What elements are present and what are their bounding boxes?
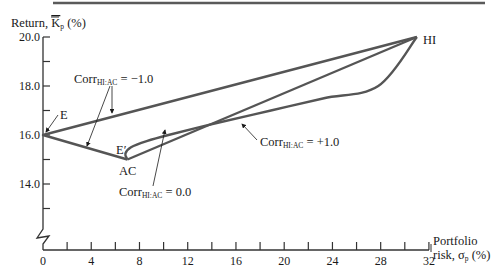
x-axis-title-line1: Portfolio xyxy=(433,234,477,248)
y-tick-labels: 14.016.018.020.0 xyxy=(19,30,40,191)
x-axis-title-line2: risk, σp (%) xyxy=(433,248,490,263)
y-axis xyxy=(37,37,49,250)
annotation-corr-neg1: CorrHI:AC = −1.0 xyxy=(74,72,153,87)
x-tick-label: 12 xyxy=(182,254,194,268)
annotation-arrows xyxy=(46,86,257,186)
point-label-E: E xyxy=(60,108,68,122)
y-tick-label: 14.0 xyxy=(19,177,40,191)
arrow-neg1-lower xyxy=(87,86,110,146)
series-lines xyxy=(43,37,417,160)
x-tick-label: 24 xyxy=(326,254,338,268)
x-tick-label: 8 xyxy=(136,254,142,268)
x-tick-label: 28 xyxy=(375,254,387,268)
annotation-corr-0: CorrHI:AC = 0.0 xyxy=(119,185,191,200)
arrow-pos1 xyxy=(242,124,257,140)
y-ticks xyxy=(43,37,50,209)
annotation-corr-pos1: CorrHI:AC = +1.0 xyxy=(260,135,339,150)
arrow-E xyxy=(46,115,58,132)
x-tick-label: 4 xyxy=(88,254,94,268)
series-corr-neg1 xyxy=(43,37,417,160)
x-tick-label: 20 xyxy=(278,254,290,268)
point-label-AC: AC xyxy=(119,164,136,178)
x-ticks xyxy=(67,242,429,250)
y-tick-label: 16.0 xyxy=(19,128,40,142)
point-label-HI: HI xyxy=(423,33,436,47)
point-label-Eprime: E′ xyxy=(116,143,127,157)
x-tick-label: 16 xyxy=(230,254,242,268)
y-axis-title: Return, Kp (%) xyxy=(11,16,86,31)
x-tick-labels: 048121620242832 xyxy=(40,254,435,268)
y-tick-label: 18.0 xyxy=(19,79,40,93)
x-tick-label: 0 xyxy=(40,254,46,268)
efficient-frontier-chart: 14.016.018.020.0 048121620242832 Return,… xyxy=(0,0,498,276)
y-tick-label: 20.0 xyxy=(19,30,40,44)
